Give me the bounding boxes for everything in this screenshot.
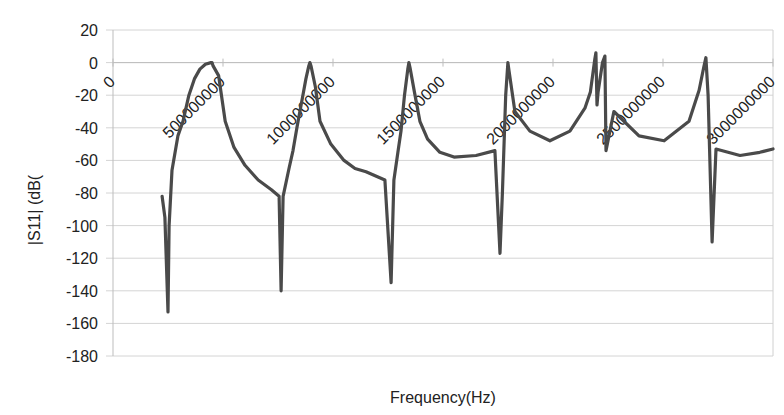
- y-tick-label: 0: [89, 55, 98, 72]
- y-tick-label: -60: [75, 152, 98, 169]
- y-tick-label: -120: [66, 250, 98, 267]
- x-tick-label: 1500000000: [373, 73, 448, 148]
- s11-curve: [162, 53, 773, 312]
- y-tick-label: -40: [75, 120, 98, 137]
- y-tick-label: -80: [75, 185, 98, 202]
- y-tick-label: -20: [75, 87, 98, 104]
- x-axis-tick-labels: 0500000000100000000015000000002000000000…: [100, 73, 778, 148]
- y-tick-label: -160: [66, 315, 98, 332]
- y-tick-label: -140: [66, 283, 98, 300]
- x-tick-label: 3000000000: [703, 73, 778, 148]
- x-tick-label: 2000000000: [483, 73, 558, 148]
- s11-chart: 200-20-40-60-80-100-120-140-160-180 0500…: [0, 0, 784, 415]
- x-tick-label: 0: [100, 73, 118, 91]
- x-axis-title: Frequency(Hz): [390, 389, 496, 406]
- y-tick-label: -180: [66, 348, 98, 365]
- y-tick-label: -100: [66, 218, 98, 235]
- y-axis-title: |S11| (dB(: [26, 174, 43, 245]
- y-axis-ticks: 200-20-40-60-80-100-120-140-160-180: [66, 22, 98, 365]
- y-tick-label: 20: [80, 22, 98, 39]
